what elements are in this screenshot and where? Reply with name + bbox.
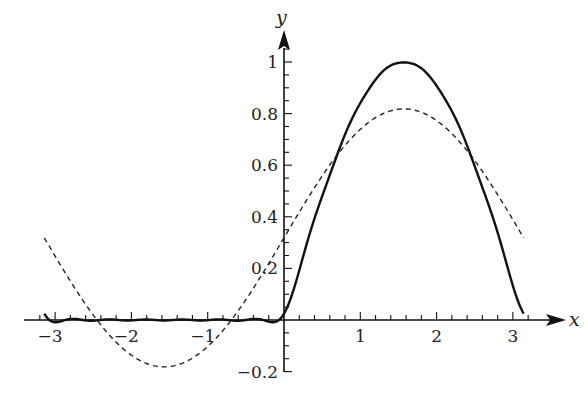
x-tick-label: 2 bbox=[431, 326, 442, 346]
x-tick-label: 1 bbox=[355, 326, 366, 346]
y-tick-label: 0.2 bbox=[251, 258, 278, 278]
x-tick-label: 3 bbox=[507, 326, 518, 346]
y-tick-label: 0.4 bbox=[251, 207, 278, 227]
y-tick-label: 0.8 bbox=[251, 104, 278, 124]
x-tick-label: −3 bbox=[38, 326, 63, 346]
y-tick-label: 1 bbox=[267, 52, 278, 72]
y-axis-arrow-icon bbox=[278, 30, 290, 50]
y-axis-label: y bbox=[275, 6, 287, 28]
x-axis-label: x bbox=[569, 308, 580, 330]
y-tick-label: 0.6 bbox=[251, 155, 278, 175]
chart-plot: −3−2−1123−0.20.20.40.60.81 x y bbox=[0, 0, 588, 399]
y-tick-label: −0.2 bbox=[237, 362, 278, 382]
